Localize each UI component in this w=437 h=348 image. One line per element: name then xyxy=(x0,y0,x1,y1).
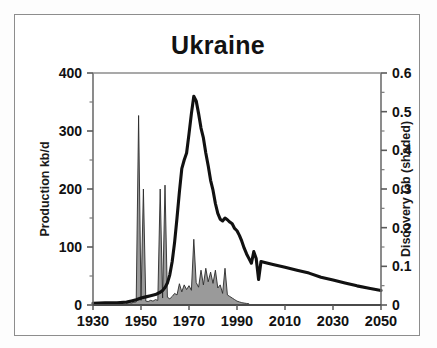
x-tick-label: 1950 xyxy=(125,313,157,329)
x-tick-label: 2050 xyxy=(365,313,397,329)
y-tick-label-left: 300 xyxy=(59,123,83,139)
y-tick-label-left: 400 xyxy=(59,65,83,81)
y-tick-label-right: 0.6 xyxy=(392,65,412,81)
x-tick-label: 2010 xyxy=(269,313,301,329)
y-tick-label-right: 0.5 xyxy=(392,104,412,120)
plot-area-wrapper: 010020030040000.10.20.30.40.50.619301950… xyxy=(15,15,421,337)
chart-figure: Ukraine 010020030040000.10.20.30.40.50.6… xyxy=(0,0,437,348)
y-axis-label-left: Production kb/d xyxy=(38,141,52,236)
y-tick-label-right: 0 xyxy=(392,297,400,313)
x-tick-label: 1990 xyxy=(221,313,253,329)
y-tick-label-left: 200 xyxy=(59,181,83,197)
chart-svg: 010020030040000.10.20.30.40.50.619301950… xyxy=(15,15,421,337)
x-tick-label: 1970 xyxy=(173,313,205,329)
figure-frame: Ukraine 010020030040000.10.20.30.40.50.6… xyxy=(14,14,420,336)
x-tick-label: 2030 xyxy=(317,313,349,329)
y-tick-label-right: 0.1 xyxy=(392,258,412,274)
y-axis-label-right: Discovery Gb (shaded) xyxy=(399,121,413,257)
y-tick-label-left: 0 xyxy=(74,297,82,313)
y-tick-label-left: 100 xyxy=(59,239,83,255)
x-tick-label: 1930 xyxy=(77,313,109,329)
